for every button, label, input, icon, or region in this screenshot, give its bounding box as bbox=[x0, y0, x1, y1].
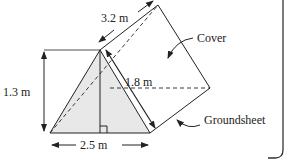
height-label: 1.3 m bbox=[3, 85, 31, 99]
tent-diagram: 1.3 m 1.8 m 3.2 m 2.5 m Cover Groundshee… bbox=[0, 0, 285, 163]
frame-border bbox=[268, 0, 283, 158]
length-label: 3.2 m bbox=[101, 11, 129, 25]
cover-right-edge bbox=[158, 5, 210, 88]
cover-label: Cover bbox=[197, 31, 226, 45]
groundsheet-label: Groundsheet bbox=[204, 113, 266, 127]
slant-label: 1.8 m bbox=[125, 75, 153, 89]
groundsheet-right-edge bbox=[150, 88, 210, 133]
base-label: 2.5 m bbox=[80, 138, 108, 152]
groundsheet-pointer bbox=[177, 120, 200, 127]
length-arrow-lower bbox=[99, 30, 114, 42]
